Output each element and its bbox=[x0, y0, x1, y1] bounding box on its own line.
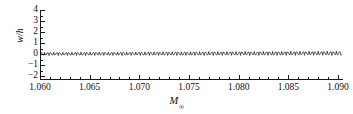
data-series-line bbox=[40, 10, 343, 80]
series-path-svg bbox=[40, 10, 343, 80]
chart-figure: w/h −2−101234 1.0601.0651.0701.0751.0801… bbox=[0, 0, 353, 114]
y-axis-tick-label: −2 bbox=[12, 71, 38, 81]
y-axis-tick-label: 3 bbox=[12, 16, 38, 26]
y-axis-tick-label: −1 bbox=[12, 60, 38, 70]
x-axis-label-subscript: ∞ bbox=[179, 102, 184, 111]
x-axis-tick-label: 1.065 bbox=[65, 82, 115, 93]
x-axis-tick-labels: 1.0601.0651.0701.0751.0801.0851.090 bbox=[0, 82, 353, 96]
x-axis-tick-label: 1.075 bbox=[164, 82, 214, 93]
y-axis-tick-label: 4 bbox=[12, 5, 38, 15]
plot-area bbox=[40, 10, 343, 80]
y-axis-tick-label: 2 bbox=[12, 27, 38, 37]
x-axis-tick-label: 1.070 bbox=[114, 82, 164, 93]
y-axis-tick-label: 0 bbox=[12, 49, 38, 59]
x-axis-tick-label: 1.060 bbox=[15, 82, 65, 93]
x-axis-tick-label: 1.085 bbox=[263, 82, 313, 93]
y-axis-tick-label: 1 bbox=[12, 38, 38, 48]
x-axis-label-symbol: M bbox=[169, 95, 178, 106]
series-polyline bbox=[40, 51, 341, 55]
x-axis-tick-label: 1.080 bbox=[214, 82, 264, 93]
x-axis-tick-label: 1.090 bbox=[313, 82, 353, 93]
x-axis-label: M∞ bbox=[0, 95, 353, 109]
